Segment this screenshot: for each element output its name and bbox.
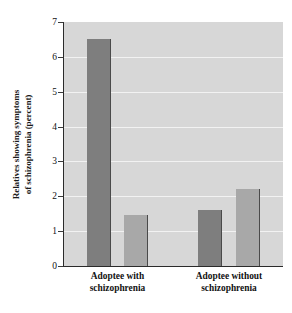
y-tick-mark-7	[58, 22, 63, 23]
bar-3	[198, 210, 222, 266]
y-axis-title-line2: of schizophrenia (percent)	[23, 89, 35, 199]
bar-2	[124, 215, 148, 266]
x-category-label-1: Adoptee withschizophrenia	[58, 271, 178, 294]
y-axis-title-line1: Relatives showing symptoms	[12, 89, 22, 199]
x-category-label-2: Adoptee withoutschizophrenia	[169, 271, 289, 294]
y-tick-label-5: 5	[38, 87, 57, 97]
x-category-label-1-line2: schizophrenia	[58, 283, 178, 295]
y-tick-mark-2	[58, 196, 63, 197]
y-tick-label-3: 3	[38, 156, 57, 166]
y-tick-mark-4	[58, 127, 63, 128]
y-tick-mark-5	[58, 92, 63, 93]
x-category-label-2-line1: Adoptee without	[196, 271, 262, 281]
bar-chart-figure: Relatives showing symptoms of schizophre…	[0, 0, 292, 313]
x-category-label-1-line1: Adoptee with	[91, 271, 144, 281]
x-category-label-2-line2: schizophrenia	[169, 283, 289, 295]
y-axis-tick-labels: 01234567	[38, 0, 57, 313]
y-tick-mark-6	[58, 57, 63, 58]
y-tick-label-2: 2	[38, 191, 57, 201]
bar-1	[87, 39, 111, 266]
y-tick-mark-0	[58, 266, 63, 267]
y-tick-label-1: 1	[38, 226, 57, 236]
y-tick-mark-1	[58, 231, 63, 232]
y-tick-mark-3	[58, 161, 63, 162]
y-tick-label-4: 4	[38, 122, 57, 132]
bar-4	[236, 189, 260, 266]
y-tick-label-6: 6	[38, 52, 57, 62]
plot-area	[64, 22, 283, 266]
y-tick-label-0: 0	[38, 261, 57, 271]
x-axis-line	[63, 266, 283, 267]
y-axis-title: Relatives showing symptoms of schizophre…	[8, 22, 38, 266]
y-tick-label-7: 7	[38, 17, 57, 27]
